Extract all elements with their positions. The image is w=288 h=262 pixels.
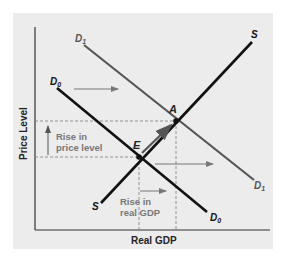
gdp-rise-label-2: real GDP — [120, 207, 161, 218]
gdp-rise-label-1: Rise in — [120, 196, 151, 207]
price-rise-label-2: price level — [56, 142, 102, 153]
s-label-top: S — [251, 29, 258, 40]
ad-as-diagram: A E D1 D1 D0 D0 S S Rise in price level … — [0, 0, 288, 262]
d1-label-bottom: D1 — [254, 180, 265, 192]
d0-label-top: D0 — [50, 76, 61, 88]
s-label-bottom: S — [92, 201, 99, 212]
point-e-label: E — [133, 139, 141, 151]
point-a-label: A — [168, 103, 177, 115]
d0-label-bottom: D0 — [210, 212, 221, 224]
d1-label-top: D1 — [75, 33, 86, 45]
point-a — [173, 118, 179, 124]
y-axis-label: Price Level — [18, 107, 29, 160]
price-rise-label-1: Rise in — [56, 131, 87, 142]
x-axis-label: Real GDP — [131, 235, 177, 246]
point-e — [136, 154, 142, 160]
movement-arrow — [142, 125, 171, 153]
